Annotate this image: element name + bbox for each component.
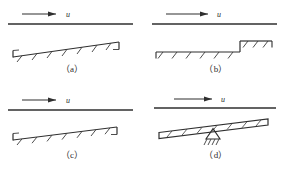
wall-hatching-c	[17, 128, 110, 145]
velocity-label-c: u	[66, 96, 70, 105]
wall-surface-c	[13, 127, 117, 141]
wall-surface-b	[156, 41, 272, 59]
velocity-label-d: u	[221, 95, 225, 104]
panel-d-caption: （d）	[144, 148, 288, 161]
wall-hatching-b	[158, 41, 268, 59]
velocity-arrow-c	[22, 97, 56, 102]
velocity-label-a: u	[66, 10, 70, 19]
panel-d: u	[144, 86, 288, 172]
panel-a: u （a）	[0, 0, 144, 86]
velocity-arrow-d	[174, 96, 212, 101]
wall-surface-a	[13, 42, 119, 58]
velocity-arrow-a	[22, 11, 56, 16]
velocity-arrow-b	[166, 11, 208, 16]
panel-a-caption: （a）	[0, 62, 144, 75]
panel-b: u （b）	[144, 0, 288, 86]
panel-c-caption: （c）	[0, 148, 144, 161]
panel-c: u （c）	[0, 86, 144, 172]
velocity-label-b: u	[217, 10, 221, 19]
wall-hatching-a	[17, 43, 111, 62]
panel-b-caption: （b）	[144, 62, 288, 75]
figure-container: u （a）	[0, 0, 288, 172]
